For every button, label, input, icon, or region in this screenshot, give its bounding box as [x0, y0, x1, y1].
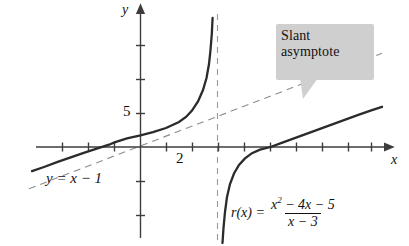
function-fraction: x2 − 4x − 5 x − 3	[268, 196, 338, 230]
fraction-denominator: x − 3	[285, 213, 321, 230]
x-axis-label: x	[391, 152, 397, 168]
callout-tail	[300, 78, 318, 99]
function-lhs: r(x) =	[231, 205, 265, 221]
x-tick-label-2: 2	[176, 150, 184, 167]
slant-asymptote-callout: Slant asymptote	[281, 28, 367, 60]
y-axis-label: y	[122, 2, 128, 18]
callout-line-1: Slant	[281, 28, 367, 44]
curve-left-branch	[32, 18, 213, 171]
function-formula: r(x) = x2 − 4x − 5 x − 3	[231, 196, 338, 230]
y-tick-label-5: 5	[123, 103, 131, 120]
slant-asymptote-equation-label: y = x − 1	[46, 170, 102, 187]
fraction-numerator: x2 − 4x − 5	[268, 196, 338, 213]
callout-line-2: asymptote	[281, 44, 367, 60]
